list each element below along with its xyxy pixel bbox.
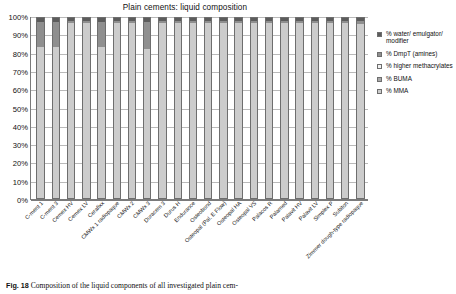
y-axis-tick-label: 10% (13, 177, 28, 186)
legend-swatch-icon (377, 32, 382, 37)
bar-column[interactable] (63, 17, 78, 199)
bar-segment (53, 47, 59, 198)
stacked-bar[interactable] (204, 17, 212, 199)
bar-column[interactable] (140, 17, 155, 199)
stacked-bar[interactable] (250, 17, 258, 199)
bar-segment (190, 23, 196, 199)
bar-segment (98, 47, 104, 198)
bar-segment (312, 23, 318, 199)
y-axis-tick-label: 50% (13, 104, 28, 113)
bar-segment (235, 23, 241, 199)
legend-swatch-icon (377, 89, 382, 94)
bar-segment (251, 23, 257, 199)
stacked-bar[interactable] (67, 17, 75, 199)
y-axis-labels: 100%90%80%70%60%50%40%30%20%10%0% (0, 17, 28, 200)
bar-column[interactable] (262, 17, 277, 199)
legend-label: % BUMA (386, 75, 412, 82)
bar-column[interactable] (277, 17, 292, 199)
figure-caption: Fig. 18 Composition of the liquid compon… (6, 281, 336, 290)
bar-column[interactable] (155, 17, 170, 199)
legend-item[interactable]: % MMA (377, 87, 455, 94)
bar-segment (53, 22, 59, 47)
stacked-bar[interactable] (82, 17, 90, 199)
bar-column[interactable] (292, 17, 307, 199)
legend-item[interactable]: % BUMA (377, 75, 455, 82)
stacked-bar[interactable] (265, 17, 273, 199)
bar-segment (159, 23, 165, 199)
y-axis-tick-label: 90% (13, 31, 28, 40)
legend-label: % MMA (386, 87, 408, 94)
bar-segment (357, 24, 363, 198)
bar-segment (83, 23, 89, 198)
stacked-bar[interactable] (113, 17, 121, 199)
y-axis-tick-label: 80% (13, 49, 28, 58)
y-axis-tick-label: 60% (13, 86, 28, 95)
stacked-bar[interactable] (52, 17, 60, 199)
bar-column[interactable] (231, 17, 246, 199)
bar-segment (144, 49, 150, 198)
bar-series-group (31, 17, 368, 199)
bar-column[interactable] (124, 17, 139, 199)
chart-legend: % water/ emulgator/ modifier% DmpT (amin… (377, 30, 455, 99)
stacked-bar[interactable] (356, 17, 364, 199)
figure-container: Plain cements: liquid composition 100%90… (0, 0, 456, 294)
stacked-bar[interactable] (36, 17, 44, 199)
legend-swatch-icon (377, 52, 382, 57)
bar-column[interactable] (338, 17, 353, 199)
bar-column[interactable] (33, 17, 48, 199)
legend-item[interactable]: % water/ emulgator/ modifier (377, 30, 455, 45)
legend-label: % DmpT (amines) (386, 50, 437, 57)
bar-segment (342, 23, 348, 199)
y-axis-tick-label: 20% (13, 159, 28, 168)
stacked-bar[interactable] (280, 17, 288, 199)
bar-segment (37, 22, 43, 47)
bar-segment (266, 23, 272, 199)
bar-segment (98, 22, 104, 47)
bar-segment (327, 23, 333, 199)
bar-column[interactable] (246, 17, 261, 199)
bar-segment (114, 23, 120, 199)
bar-segment (205, 23, 211, 199)
x-axis-labels: C-ment 1C-ment 3Cemex HVCemex LVCerafixx… (30, 200, 368, 278)
stacked-bar[interactable] (234, 17, 242, 199)
stacked-bar[interactable] (128, 17, 136, 199)
plot-wrapper (30, 17, 368, 200)
plot-area (30, 17, 368, 200)
stacked-bar[interactable] (326, 17, 334, 199)
bar-column[interactable] (109, 17, 124, 199)
stacked-bar[interactable] (189, 17, 197, 199)
bar-column[interactable] (185, 17, 200, 199)
bar-column[interactable] (353, 17, 368, 199)
legend-swatch-icon (377, 77, 382, 82)
bar-column[interactable] (170, 17, 185, 199)
bar-segment (68, 23, 74, 198)
bar-column[interactable] (307, 17, 322, 199)
stacked-bar[interactable] (341, 17, 349, 199)
stacked-bar[interactable] (158, 17, 166, 199)
stacked-bar[interactable] (311, 17, 319, 199)
stacked-bar[interactable] (219, 17, 227, 199)
stacked-bar[interactable] (97, 17, 105, 199)
legend-item[interactable]: % DmpT (amines) (377, 50, 455, 57)
bar-segment (37, 47, 43, 198)
y-axis-tick-label: 0% (17, 196, 28, 205)
figure-number: Fig. 18 (6, 281, 29, 290)
bar-column[interactable] (216, 17, 231, 199)
bar-column[interactable] (48, 17, 63, 199)
y-axis-tick-label: 100% (9, 13, 28, 22)
stacked-bar[interactable] (143, 17, 151, 199)
bar-segment (296, 23, 302, 199)
stacked-bar[interactable] (174, 17, 182, 199)
bar-segment (220, 23, 226, 199)
bar-column[interactable] (94, 17, 109, 199)
legend-item[interactable]: % higher methacrylates (377, 62, 455, 69)
bar-column[interactable] (79, 17, 94, 199)
chart-title: Plain cements: liquid composition (0, 3, 370, 12)
figure-caption-text: Composition of the liquid components of … (31, 281, 238, 290)
legend-label: % higher methacrylates (386, 62, 453, 69)
stacked-bar[interactable] (295, 17, 303, 199)
legend-swatch-icon (377, 64, 382, 69)
bar-column[interactable] (201, 17, 216, 199)
bar-column[interactable] (322, 17, 337, 199)
legend-label: % water/ emulgator/ modifier (386, 30, 455, 45)
